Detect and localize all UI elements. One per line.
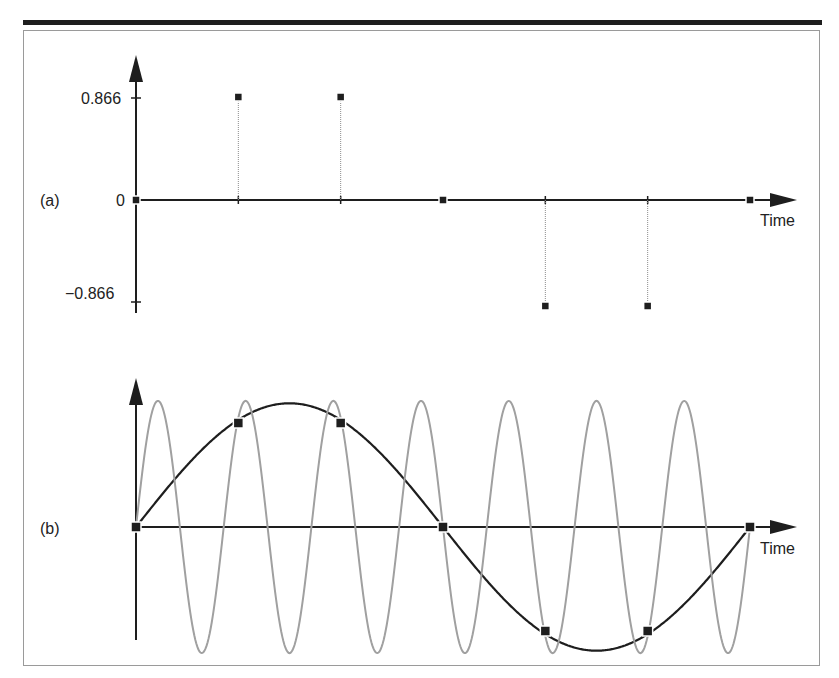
figure-canvas: (a) 0.866 0 −0.866 Time (b) Time [0, 0, 839, 678]
y-axis-arrow-icon [129, 378, 143, 405]
sample-marker [438, 522, 448, 532]
sample-marker [643, 626, 653, 636]
x-axis-label-b: Time [760, 540, 795, 557]
sample-marker [541, 302, 549, 310]
sample-marker [132, 196, 140, 204]
y-tick-label-pos: 0.866 [81, 90, 121, 107]
y-axis-arrow-icon [129, 55, 143, 82]
x-axis-arrow-icon [770, 193, 797, 207]
x-axis-label-a: Time [760, 212, 795, 229]
panel-a: (a) 0.866 0 −0.866 Time [40, 55, 797, 313]
sample-marker [746, 196, 754, 204]
y-tick-label-zero: 0 [116, 192, 125, 209]
panel-b: (b) Time [40, 378, 797, 653]
sample-marker [131, 522, 141, 532]
sample-marker [745, 522, 755, 532]
sample-marker [233, 418, 243, 428]
sample-marker [337, 93, 345, 101]
panel-a-label: (a) [40, 192, 60, 209]
sample-marker [234, 93, 242, 101]
sample-marker [540, 626, 550, 636]
sample-marker [644, 302, 652, 310]
sample-marker [336, 418, 346, 428]
sample-marker [439, 196, 447, 204]
y-tick-label-neg: −0.866 [65, 285, 114, 302]
x-axis-arrow-icon [770, 520, 797, 534]
panel-b-label: (b) [40, 520, 60, 537]
